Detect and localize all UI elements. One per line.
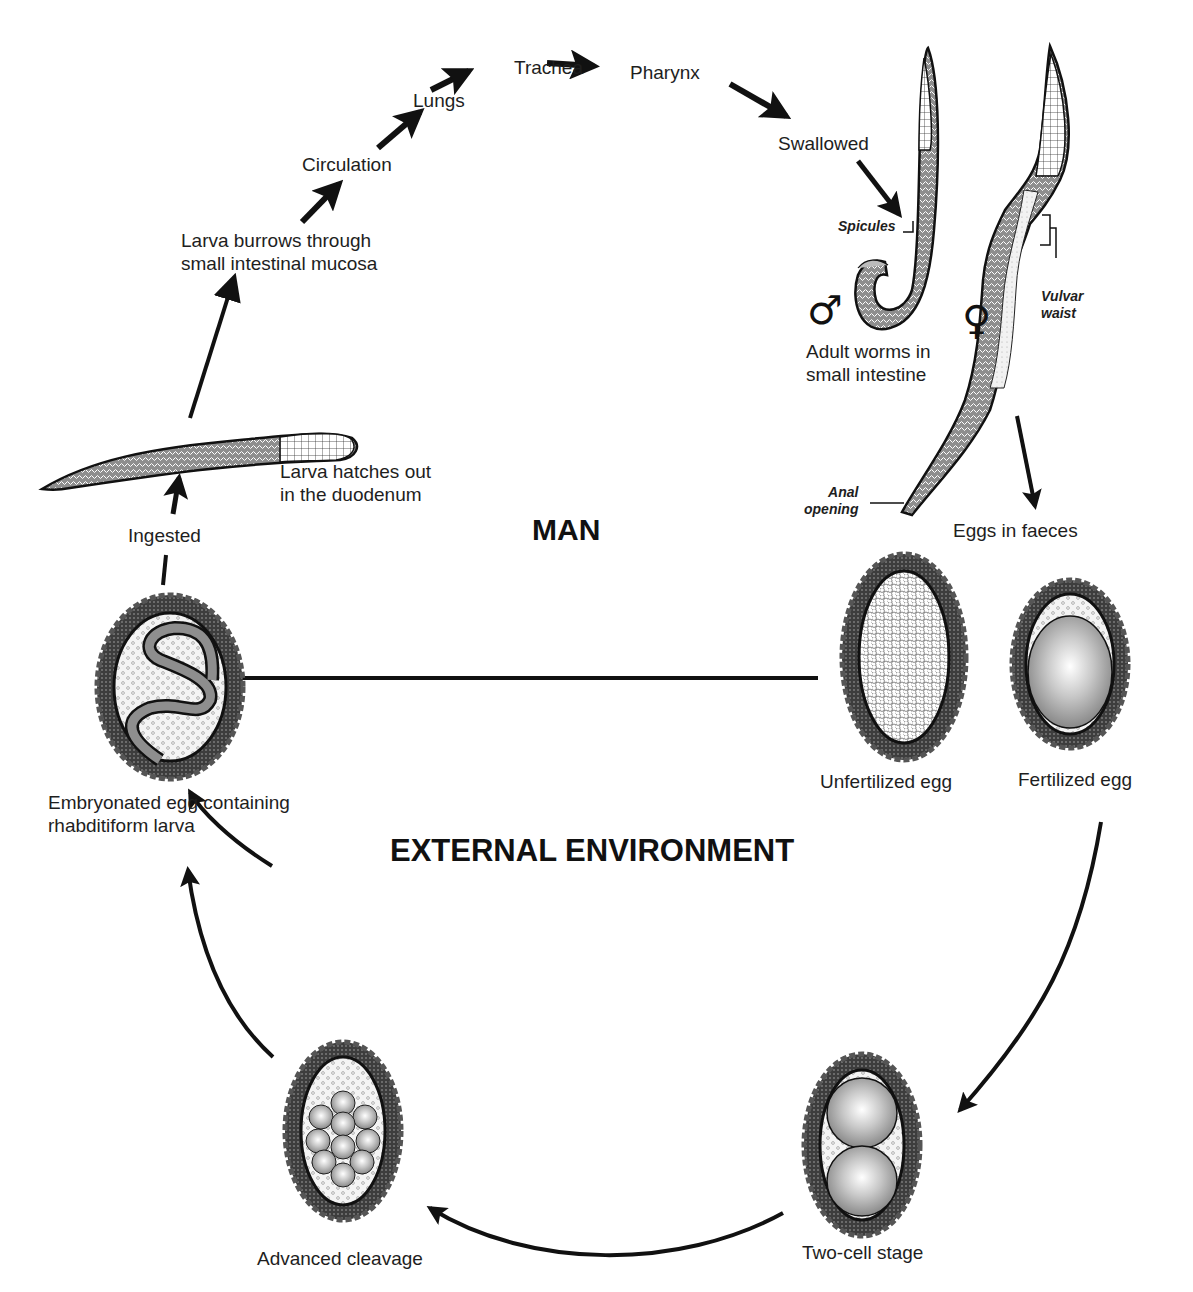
label-advanced-cleavage: Advanced cleavage (257, 1247, 423, 1270)
two-cell-egg-illustration (804, 1054, 920, 1236)
label-vulvar-waist: Vulvar waist (1041, 288, 1084, 322)
label-circulation: Circulation (302, 153, 392, 176)
label-swallowed: Swallowed (778, 132, 869, 155)
label-lungs: Lungs (413, 89, 465, 112)
label-larva-burrows: Larva burrows through small intestinal m… (181, 229, 377, 275)
label-two-cell-stage: Two-cell stage (802, 1241, 923, 1264)
label-pharynx: Pharynx (630, 61, 700, 84)
female-symbol-icon: ♀ (962, 300, 991, 340)
fertilized-egg-illustration (1012, 580, 1128, 748)
label-larva-hatches: Larva hatches out in the duodenum (280, 460, 431, 506)
zone-title-external-environment: EXTERNAL ENVIRONMENT (390, 833, 794, 869)
label-spicules: Spicules (838, 218, 896, 235)
label-embryonated-egg: Embryonated egg containing rhabditiform … (48, 791, 290, 837)
zone-title-man: MAN (532, 513, 600, 547)
label-fertilized-egg: Fertilized egg (1018, 768, 1132, 791)
advanced-cleavage-egg-illustration (285, 1042, 401, 1220)
label-anal-opening: Anal opening (804, 484, 858, 518)
life-cycle-diagram (0, 0, 1193, 1292)
label-unfertilized-egg: Unfertilized egg (820, 770, 952, 793)
male-symbol-icon: ♂ (807, 290, 843, 330)
label-eggs-in-faeces: Eggs in faeces (953, 519, 1078, 542)
male-worm-illustration (855, 48, 938, 329)
label-ingested: Ingested (128, 524, 201, 547)
spicules-pointer (903, 221, 913, 232)
label-trachea: Trachea (514, 56, 583, 79)
embryonated-egg-illustration (97, 595, 243, 779)
label-adult-worms: Adult worms in small intestine (806, 340, 931, 386)
unfertilized-egg-illustration (842, 554, 966, 760)
